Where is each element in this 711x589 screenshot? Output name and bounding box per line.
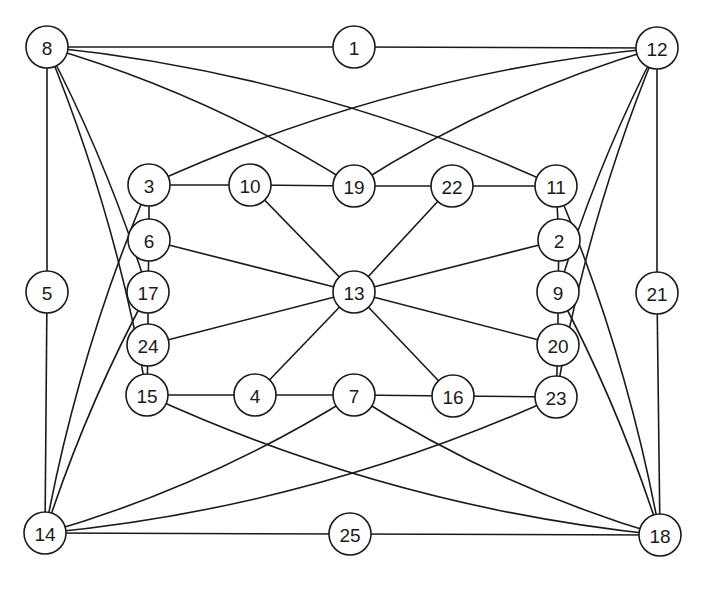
node-label: 12 xyxy=(646,39,667,60)
node-25: 25 xyxy=(329,513,371,555)
node-label: 6 xyxy=(144,231,155,252)
node-7: 7 xyxy=(333,374,375,416)
node-label: 21 xyxy=(646,284,667,305)
node-14: 14 xyxy=(24,512,66,554)
node-label: 24 xyxy=(137,336,159,357)
node-11: 11 xyxy=(535,165,577,207)
node-label: 22 xyxy=(441,177,462,198)
node-label: 8 xyxy=(42,38,53,59)
graph-diagram: 1234567891011121314151617181920212223242… xyxy=(0,0,711,589)
node-label: 13 xyxy=(343,283,364,304)
node-5: 5 xyxy=(26,271,68,313)
edge-18-7 xyxy=(354,395,660,535)
edge-25-18 xyxy=(350,534,660,535)
node-8: 8 xyxy=(26,26,68,68)
node-label: 4 xyxy=(250,386,261,407)
node-17: 17 xyxy=(127,271,169,313)
node-10: 10 xyxy=(229,164,271,206)
node-4: 4 xyxy=(234,374,276,416)
node-22: 22 xyxy=(431,165,473,207)
node-label: 5 xyxy=(42,283,53,304)
edge-18-15 xyxy=(147,395,660,535)
node-23: 23 xyxy=(535,376,577,418)
edge-14-25 xyxy=(45,533,350,534)
edge-13-6 xyxy=(149,240,354,292)
edge-13-20 xyxy=(354,292,558,345)
node-label: 11 xyxy=(546,177,566,198)
node-20: 20 xyxy=(537,324,579,366)
edge-5-14 xyxy=(45,292,47,533)
node-label: 3 xyxy=(144,176,155,197)
edge-1-12 xyxy=(354,47,657,48)
node-3: 3 xyxy=(128,164,170,206)
edge-12-19 xyxy=(354,48,657,186)
node-label: 17 xyxy=(137,283,158,304)
node-21: 21 xyxy=(636,272,678,314)
node-24: 24 xyxy=(127,324,169,366)
edge-12-3 xyxy=(149,48,657,185)
node-label: 10 xyxy=(239,176,260,197)
node-label: 19 xyxy=(343,177,364,198)
node-12: 12 xyxy=(636,27,678,69)
node-6: 6 xyxy=(128,219,170,261)
node-19: 19 xyxy=(333,165,375,207)
node-label: 25 xyxy=(339,525,360,546)
edge-13-2 xyxy=(354,240,559,292)
node-18: 18 xyxy=(639,514,681,556)
node-label: 2 xyxy=(554,231,565,252)
edge-14-7 xyxy=(45,395,354,533)
node-label: 7 xyxy=(349,386,360,407)
node-label: 18 xyxy=(649,526,670,547)
node-label: 23 xyxy=(545,388,566,409)
node-label: 14 xyxy=(34,524,56,545)
node-label: 15 xyxy=(136,386,157,407)
node-13: 13 xyxy=(333,271,375,313)
node-1: 1 xyxy=(333,26,375,68)
node-label: 1 xyxy=(349,38,360,59)
node-15: 15 xyxy=(126,374,168,416)
graph-nodes: 1234567891011121314151617181920212223242… xyxy=(24,26,681,556)
node-9: 9 xyxy=(537,271,579,313)
node-label: 20 xyxy=(547,336,568,357)
edge-13-24 xyxy=(148,292,354,345)
node-label: 16 xyxy=(442,387,463,408)
node-label: 9 xyxy=(553,283,564,304)
edge-8-19 xyxy=(47,47,354,186)
edge-21-18 xyxy=(657,293,660,535)
node-16: 16 xyxy=(432,375,474,417)
node-2: 2 xyxy=(538,219,580,261)
